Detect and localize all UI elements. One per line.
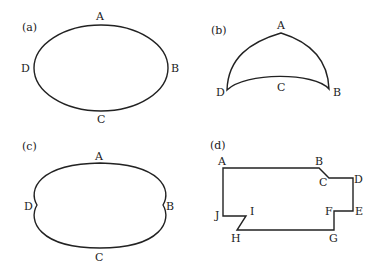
panel-c: (c) A B C D — [22, 140, 174, 264]
panel-d-label-c: C — [319, 176, 327, 189]
panel-c-label-c: C — [95, 251, 103, 264]
panel-d-label-e: E — [355, 205, 363, 218]
panel-c-label-a: A — [94, 150, 104, 163]
panel-d-label-f: F — [325, 205, 333, 218]
diagram-canvas: (a) A B C D (b) A B C D (c) A B C D (d) … — [0, 0, 381, 275]
panel-d-polygon — [223, 168, 353, 230]
panel-d-caption: (d) — [210, 139, 226, 152]
panel-b: (b) A B C D — [211, 19, 341, 99]
panel-b-label-b: B — [333, 86, 341, 99]
panel-d-label-d: D — [354, 173, 363, 186]
panel-a: (a) A B C D — [21, 10, 179, 126]
panel-d-label-i: I — [250, 205, 254, 218]
panel-a-caption: (a) — [22, 21, 37, 34]
panel-d-label-b: B — [315, 155, 323, 168]
panel-d-label-a: A — [217, 155, 227, 168]
panel-b-caption: (b) — [211, 24, 227, 37]
panel-a-label-c: C — [97, 113, 105, 126]
panel-a-label-a: A — [95, 10, 105, 23]
panel-d-label-h: H — [231, 232, 241, 245]
panel-a-ellipse — [34, 25, 168, 111]
panel-c-label-b: B — [166, 200, 174, 213]
panel-b-label-d: D — [216, 86, 225, 99]
panel-c-caption: (c) — [22, 140, 37, 153]
panel-d-label-g: G — [329, 232, 338, 245]
panel-a-label-b: B — [171, 62, 179, 75]
panel-d-label-j: J — [214, 209, 219, 222]
panel-b-label-a: A — [276, 19, 286, 32]
panel-c-shape — [34, 163, 166, 248]
panel-b-label-c: C — [277, 81, 285, 94]
panel-a-label-d: D — [21, 62, 30, 75]
panel-d: (d) A B C D E F G H I J — [210, 139, 363, 245]
panel-c-label-d: D — [24, 200, 33, 213]
